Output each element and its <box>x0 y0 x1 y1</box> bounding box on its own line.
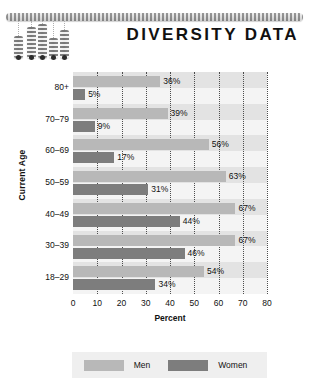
bar-value-label: 31% <box>151 184 168 195</box>
bar-value-label: 36% <box>163 76 180 87</box>
y-axis-tick-label: 80+ <box>3 82 69 92</box>
bar-women <box>73 184 148 195</box>
legend-swatch-women <box>168 360 208 371</box>
bar-value-label: 17% <box>117 152 134 163</box>
bar-value-label: 34% <box>158 279 175 290</box>
decorative-dot-icon <box>40 55 45 60</box>
legend-label-women: Women <box>218 360 247 370</box>
gridline <box>97 72 98 294</box>
bar-value-label: 63% <box>229 171 246 182</box>
x-axis-tick-label: 20 <box>112 298 132 308</box>
gridline <box>122 72 123 294</box>
legend-label-men: Men <box>134 360 151 370</box>
page-title: DIVERSITY DATA <box>127 25 299 45</box>
decorative-dot-icon <box>51 55 56 60</box>
gridline <box>194 72 195 294</box>
decorative-dot-icon <box>29 55 34 60</box>
bar-women <box>73 89 85 100</box>
x-axis-title: Percent <box>73 313 267 323</box>
chart: Current Age 36%5%39%9%56%17%63%31%67%44%… <box>0 66 311 326</box>
bar-women <box>73 152 114 163</box>
x-axis-tick-label: 80 <box>257 298 277 308</box>
bar-women <box>73 279 155 290</box>
bar-value-label: 56% <box>212 139 229 150</box>
gridline <box>219 72 220 294</box>
x-axis-tick-label: 30 <box>136 298 156 308</box>
decorative-rail-icon <box>6 13 303 21</box>
gridline <box>170 72 171 294</box>
plot-area: 36%5%39%9%56%17%63%31%67%44%67%46%54%34% <box>73 72 267 294</box>
decorative-bar-icon <box>27 27 36 58</box>
x-axis-tick-label: 0 <box>63 298 83 308</box>
decorative-dot-icon <box>16 55 21 60</box>
y-axis-tick-label: 18–29 <box>3 272 69 282</box>
header: DIVERSITY DATA <box>0 0 311 66</box>
gridline <box>243 72 244 294</box>
bar-value-label: 9% <box>98 121 110 132</box>
bar-value-label: 67% <box>238 203 255 214</box>
bar-men <box>73 266 204 277</box>
bar-men <box>73 171 226 182</box>
gridline <box>267 72 268 294</box>
y-axis-tick-label: 30–39 <box>3 240 69 250</box>
bar-value-label: 44% <box>183 216 200 227</box>
bar-women <box>73 216 180 227</box>
y-axis-tick-label: 50–59 <box>3 177 69 187</box>
bar-women <box>73 248 185 259</box>
y-axis-tick-label: 60–69 <box>3 145 69 155</box>
bar-women <box>73 121 95 132</box>
bar-value-label: 67% <box>238 235 255 246</box>
x-axis-tick-label: 40 <box>160 298 180 308</box>
bar-value-label: 46% <box>188 248 205 259</box>
decorative-bar-icon <box>60 30 69 58</box>
y-axis-tick-label: 40–49 <box>3 209 69 219</box>
bar-value-label: 5% <box>88 89 100 100</box>
bar-men <box>73 139 209 150</box>
decorative-dot-icon <box>62 55 67 60</box>
x-axis-tick-label: 70 <box>233 298 253 308</box>
bar-men <box>73 235 235 246</box>
bar-value-label: 54% <box>207 266 224 277</box>
gridline <box>146 72 147 294</box>
bar-men <box>73 76 160 87</box>
decorative-stem <box>64 21 66 30</box>
legend: MenWomen <box>72 352 267 378</box>
bar-men <box>73 108 168 119</box>
x-axis-tick-label: 60 <box>209 298 229 308</box>
decorative-stem <box>18 21 20 36</box>
x-axis-tick-label: 50 <box>184 298 204 308</box>
bar-value-label: 39% <box>171 108 188 119</box>
decorative-stem <box>53 21 55 38</box>
decorative-bar-icon <box>38 24 47 58</box>
y-axis-tick-label: 70–79 <box>3 114 69 124</box>
bar-men <box>73 203 235 214</box>
x-axis-tick-label: 10 <box>87 298 107 308</box>
legend-swatch-men <box>84 360 124 371</box>
